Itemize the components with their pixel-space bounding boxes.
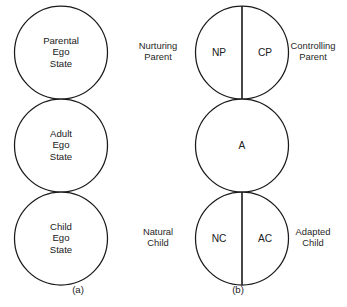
panel-a-parent-line1: Parental bbox=[43, 35, 79, 46]
panel-b-cp-code: CP bbox=[258, 47, 272, 58]
panel-b: NP CP Nurturing Parent Controlling Paren… bbox=[139, 6, 336, 295]
panel-a-caption: (a) bbox=[72, 284, 84, 295]
panel-a-adult-line2: Ego bbox=[52, 139, 69, 150]
panel-b-np-code: NP bbox=[212, 47, 226, 58]
panel-b-natural-label-line1: Natural bbox=[143, 226, 173, 237]
panel-b-natural-label-line2: Child bbox=[147, 237, 168, 248]
panel-a-child-line3: State bbox=[50, 244, 72, 255]
panel-b-nurturing-label-line2: Parent bbox=[144, 51, 172, 62]
panel-b-controlling-label-line2: Parent bbox=[299, 51, 327, 62]
panel-b-ac-code: AC bbox=[258, 233, 272, 244]
panel-b-controlling-label-line1: Controlling bbox=[291, 40, 336, 51]
panel-a-adult-line1: Adult bbox=[50, 128, 72, 139]
panel-a-parent-line3: State bbox=[50, 58, 72, 69]
panel-b-nurturing-label-line1: Nurturing bbox=[139, 40, 178, 51]
figure-canvas: Parental Ego State Adult Ego State Child… bbox=[0, 0, 347, 307]
panel-a-parent-line2: Ego bbox=[52, 46, 69, 57]
panel-a-adult-line3: State bbox=[50, 151, 72, 162]
panel-b-adapted-label-line1: Adapted bbox=[296, 226, 331, 237]
panel-a-child-line1: Child bbox=[50, 221, 72, 232]
panel-a: Parental Ego State Adult Ego State Child… bbox=[15, 6, 108, 295]
panel-b-caption: (b) bbox=[232, 284, 244, 295]
panel-b-nc-code: NC bbox=[212, 233, 227, 244]
panel-b-adapted-label-line2: Child bbox=[302, 237, 323, 248]
ego-state-diagram: Parental Ego State Adult Ego State Child… bbox=[0, 0, 347, 307]
panel-b-a-code: A bbox=[239, 140, 246, 151]
panel-a-child-line2: Ego bbox=[52, 232, 69, 243]
